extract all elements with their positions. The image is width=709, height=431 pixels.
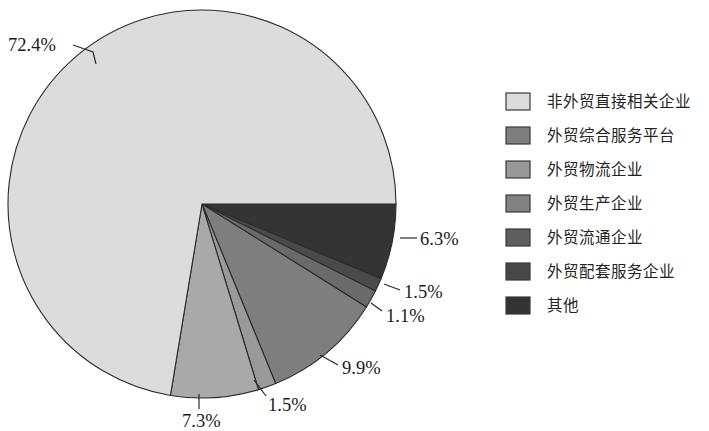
legend-label-0: 非外贸直接相关企业 <box>547 93 691 111</box>
percent-label-1-1: 1.1% <box>386 306 425 326</box>
legend-item-6[interactable]: 其他 <box>506 297 579 315</box>
percent-label-72-4: 72.4% <box>8 35 56 55</box>
percent-label-9-9: 9.9% <box>342 358 381 378</box>
legend-swatch-4 <box>506 229 530 246</box>
pie-chart-figure: 72.4% 6.3% 1.5% 1.1% 9.9% 1.5% 7.3% 非外贸直… <box>0 0 709 431</box>
legend-swatch-2 <box>506 161 530 178</box>
legend-item-4[interactable]: 外贸流通企业 <box>506 229 643 247</box>
legend-label-6: 其他 <box>547 297 579 315</box>
legend-item-2[interactable]: 外贸物流企业 <box>506 161 643 179</box>
legend-swatch-1 <box>506 127 530 144</box>
legend-label-3: 外贸生产企业 <box>547 195 643 213</box>
percent-label-7-3: 7.3% <box>182 411 221 431</box>
legend-item-0[interactable]: 非外贸直接相关企业 <box>506 93 691 111</box>
legend-label-4: 外贸流通企业 <box>547 229 643 247</box>
legend-item-5[interactable]: 外贸配套服务企业 <box>506 263 675 281</box>
legend-item-1[interactable]: 外贸综合服务平台 <box>506 127 675 145</box>
leader-line-9-9 <box>320 355 338 365</box>
legend: 非外贸直接相关企业 外贸综合服务平台 外贸物流企业 外贸生产企业 外贸流通企业 … <box>506 93 691 315</box>
legend-swatch-6 <box>506 297 530 314</box>
legend-swatch-3 <box>506 195 530 212</box>
pie-slices <box>8 10 396 398</box>
percent-label-1-5-bottom: 1.5% <box>268 395 307 415</box>
percent-label-1-5-right: 1.5% <box>404 282 443 302</box>
leader-line-1-5-right <box>384 284 400 290</box>
percent-label-6-3: 6.3% <box>420 229 459 249</box>
legend-label-2: 外贸物流企业 <box>547 161 643 179</box>
legend-item-3[interactable]: 外贸生产企业 <box>506 195 643 213</box>
legend-label-5: 外贸配套服务企业 <box>547 263 675 281</box>
legend-swatch-0 <box>506 93 530 110</box>
legend-swatch-5 <box>506 263 530 280</box>
leader-line-1-1 <box>371 303 382 311</box>
legend-label-1: 外贸综合服务平台 <box>547 127 675 145</box>
chart-canvas: 72.4% 6.3% 1.5% 1.1% 9.9% 1.5% 7.3% 非外贸直… <box>0 0 709 431</box>
